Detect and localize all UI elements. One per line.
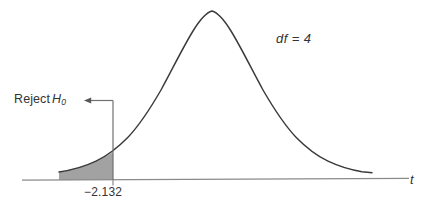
critical-value-label: −2.132 [84,185,122,199]
null-hypothesis-subscript: 0 [61,97,66,107]
reject-h0-label: RejectH0 [14,92,66,107]
t-distribution-chart: RejectH0 df = 4 −2.132 t [0,0,438,215]
degrees-of-freedom-annotation: df = 4 [276,31,311,46]
x-axis-label: t [410,172,414,187]
null-hypothesis-symbol: H [50,92,61,106]
reject-arrow-icon [84,97,91,103]
chart-canvas [0,0,438,215]
t-distribution-curve [59,11,372,173]
reject-word: Reject [14,92,50,106]
